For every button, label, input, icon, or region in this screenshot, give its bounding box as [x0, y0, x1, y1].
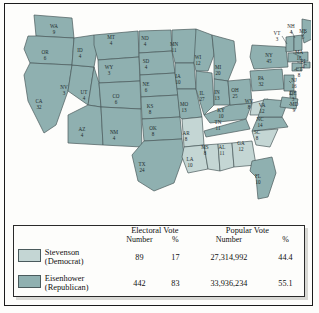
state-pa — [250, 69, 284, 91]
state-votes-ny: 45 — [266, 58, 272, 64]
us-electoral-map: WA9OR6CA32NV3ID4MT4WY3UT4CO6AZ4NM4ND4SD4… — [6, 5, 311, 220]
state-shapes-layer — [24, 15, 311, 199]
candidate-cell: Stevenson(Democrat) — [45, 244, 119, 270]
popular-percent-header: % — [267, 235, 304, 244]
legend-row: Stevenson(Democrat)891727,314,99244.4 — [14, 244, 304, 270]
candidate-name: Stevenson — [45, 248, 79, 257]
state-or — [24, 36, 74, 65]
legend-row: Eisenhower(Republican)4428333,936,23455.… — [14, 270, 304, 296]
candidate-cell: Eisenhower(Republican) — [45, 270, 119, 296]
table-group-header-row: Electoral Vote Popular Vote — [14, 226, 304, 235]
spacer-name-2 — [45, 235, 119, 244]
swatch-cell — [14, 244, 45, 270]
map-svg: WA9OR6CA32NV3ID4MT4WY3UT4CO6AZ4NM4ND4SD4… — [6, 5, 311, 220]
state-votes-tx: 24 — [139, 167, 145, 173]
state-fl — [250, 157, 276, 199]
state-votes-mo: 13 — [181, 107, 187, 113]
spacer-name — [45, 226, 119, 235]
state-votes-tn: 11 — [216, 125, 221, 131]
state-votes-nd: 4 — [144, 41, 147, 47]
state-votes-mt: 4 — [110, 40, 113, 46]
state-votes-ca: 32 — [36, 104, 42, 110]
state-votes-wv: 8 — [248, 104, 251, 110]
state-votes-in: 13 — [214, 95, 220, 101]
state-az — [68, 105, 103, 145]
state-votes-or: 6 — [44, 55, 47, 61]
state-votes-ia: 10 — [175, 79, 181, 85]
state-votes-mn: 11 — [172, 47, 177, 53]
state-votes-wa: 9 — [53, 29, 56, 35]
spacer-swatch — [14, 226, 45, 235]
state-co — [99, 81, 141, 109]
election-map-figure: WA9OR6CA32NV3ID4MT4WY3UT4CO6AZ4NM4ND4SD4… — [0, 0, 319, 313]
state-votes-il: 27 — [199, 96, 205, 102]
swatch-cell — [14, 270, 45, 296]
state-ca — [24, 63, 72, 133]
state-votes-me: 5 — [302, 34, 305, 40]
popular-number-header: Number — [191, 235, 267, 244]
state-votes-ga: 12 — [238, 146, 244, 152]
state-votes-ok: 8 — [152, 131, 155, 137]
state-votes-az: 4 — [81, 132, 84, 138]
state-votes-ct: 8 — [298, 72, 301, 78]
candidate-party: (Democrat) — [45, 257, 119, 266]
state-ok — [142, 117, 182, 141]
state-votes-id: 4 — [79, 53, 82, 59]
state-votes-ms: 8 — [204, 150, 207, 156]
state-votes-co: 6 — [115, 99, 118, 105]
spacer-swatch-2 — [14, 235, 45, 244]
table-sub-header-row: Number % Number % — [14, 235, 304, 244]
state-votes-al: 11 — [220, 150, 225, 156]
electoral-percent: 17 — [160, 244, 191, 270]
state-votes-ne: 6 — [145, 87, 148, 93]
vote-rows-body: Stevenson(Democrat)891727,314,99244.4Eis… — [14, 244, 304, 296]
state-votes-nv: 3 — [63, 90, 66, 96]
legend-swatch-dem — [18, 249, 41, 262]
state-votes-fl: 10 — [255, 179, 261, 185]
state-votes-nc: 14 — [257, 122, 263, 128]
electoral-number: 89 — [119, 244, 160, 270]
state-votes-wy: 3 — [108, 70, 111, 76]
vote-summary-table: Electoral Vote Popular Vote Number % Num… — [14, 226, 304, 296]
popular-number: 33,936,234 — [191, 270, 267, 296]
state-nm — [101, 107, 142, 147]
state-votes-ut: 4 — [83, 95, 86, 101]
state-votes-la: 10 — [187, 162, 193, 168]
candidate-party: (Republican) — [45, 283, 119, 292]
popular-percent: 44.4 — [267, 244, 304, 270]
state-votes-nj: 16 — [291, 83, 297, 89]
state-votes-sd: 4 — [145, 64, 148, 70]
state-votes-nh: 4 — [290, 29, 293, 35]
state-mt — [94, 31, 139, 60]
electoral-vote-header: Electoral Vote — [119, 226, 191, 235]
state-votes-ks: 8 — [149, 109, 152, 115]
legend-panel: Electoral Vote Popular Vote Number % Num… — [13, 225, 305, 297]
electoral-number-header: Number — [119, 235, 160, 244]
state-votes-nm: 4 — [113, 135, 116, 141]
popular-vote-header: Popular Vote — [191, 226, 304, 235]
state-votes-md: 9 — [293, 107, 296, 113]
candidate-name: Eisenhower — [45, 274, 85, 283]
state-votes-mi: 20 — [215, 70, 221, 76]
popular-percent: 55.1 — [267, 270, 304, 296]
electoral-percent-header: % — [160, 235, 191, 244]
state-votes-pa: 32 — [258, 81, 264, 87]
state-votes-va: 12 — [259, 108, 265, 114]
state-votes-ar: 8 — [185, 136, 188, 142]
popular-number: 27,314,992 — [191, 244, 267, 270]
state-votes-wi: 12 — [195, 60, 201, 66]
state-votes-sc: 8 — [256, 135, 259, 141]
state-votes-oh: 25 — [232, 93, 238, 99]
state-votes-vt: 3 — [276, 36, 279, 42]
legend-swatch-rep — [18, 275, 41, 288]
electoral-number: 442 — [119, 270, 160, 296]
state-vt — [286, 36, 294, 52]
electoral-percent: 83 — [160, 270, 191, 296]
